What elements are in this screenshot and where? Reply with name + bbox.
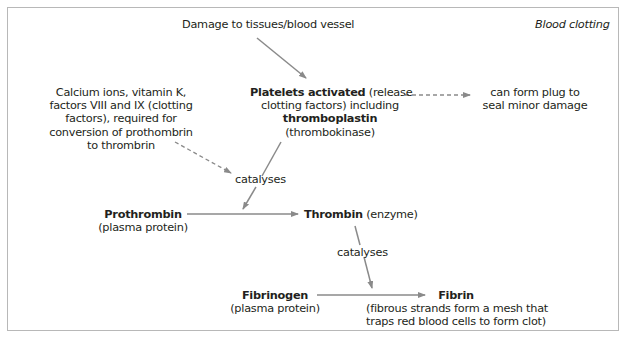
node-cofactors: Calcium ions, vitamin K, factors VIII an… — [46, 86, 196, 152]
arrow-catalyses-to-conversion — [243, 187, 256, 209]
line-thrombin-to-catalyses — [355, 226, 360, 245]
node-damage: Damage to tissues/blood vessel — [182, 18, 354, 31]
node-platelets: Platelets activated (release clotting fa… — [250, 86, 410, 139]
node-fibrin: Fibrin (fibrous strands form a mesh that… — [366, 289, 546, 329]
arrow-catalyses-to-fibrin-conversion — [364, 257, 372, 288]
label-catalyses-2: catalyses — [337, 246, 388, 259]
arrow-damage-to-platelets — [257, 38, 306, 78]
platelets-bold: Platelets activated — [250, 86, 365, 99]
label-catalyses-1: catalyses — [235, 173, 286, 186]
node-fibrinogen: Fibrinogen (plasma protein) — [230, 289, 320, 315]
line-platelets-to-catalyses — [262, 142, 281, 176]
node-thrombin: Thrombin (enzyme) — [304, 208, 418, 221]
diagram-title: Blood clotting — [535, 18, 610, 31]
node-plug: can form plug to seal minor damage — [470, 86, 600, 112]
thromboplastin-bold: thromboplastin — [283, 112, 378, 125]
node-prothrombin: Prothrombin (plasma protein) — [98, 208, 188, 234]
